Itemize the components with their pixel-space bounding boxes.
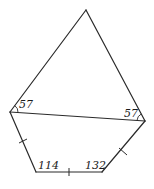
angle-label-bottom-left: 114	[38, 159, 59, 172]
angle-arc-left	[15, 106, 18, 113]
edge-top-left	[10, 10, 86, 112]
angle-label-right: 57	[124, 107, 138, 120]
angle-label-left: 57	[19, 98, 33, 111]
geometry-diagram: 57 57 114 132	[0, 0, 154, 189]
edge-top-right	[86, 10, 145, 121]
edge-bottomright-right	[102, 121, 145, 172]
edge-left-bottomleft	[10, 112, 36, 172]
angle-label-bottom-right: 132	[85, 159, 106, 172]
tick-mark-right	[119, 148, 127, 155]
